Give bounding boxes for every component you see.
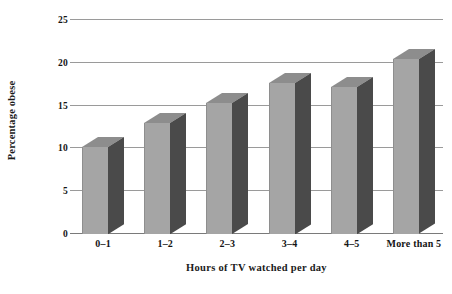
y-tick-label-15: 15 [26,101,68,111]
plot-area [70,20,443,234]
bar-3-front [206,103,232,234]
x-axis-title: Hours of TV watched per day [70,262,443,273]
bar-5 [331,77,373,234]
bar-2 [144,113,186,234]
y-axis-tick-labels: 0510152025 [0,0,68,294]
bar-4 [269,73,311,235]
bar-1-front [82,147,108,234]
y-tick-label-5: 5 [26,186,68,196]
bar-3 [206,93,248,234]
bar-6-front [393,59,419,234]
y-tick-label-20: 20 [26,58,68,68]
y-tick-label-25: 25 [26,15,68,25]
x-axis-tick-labels: 0–11–22–33–44–5More than 5 [70,238,443,258]
bar-5-front [331,87,357,234]
bar-chart-figure: Percentage obese 0510152025 0–11–22–33–4… [0,0,452,294]
bar-6 [393,49,435,234]
bar-2-front [144,123,170,234]
bar-1 [82,137,124,234]
x-tick-label-6: More than 5 [364,238,452,249]
bars-layer [70,20,443,234]
bar-4-front [269,83,295,235]
y-tick-label-10: 10 [26,143,68,153]
